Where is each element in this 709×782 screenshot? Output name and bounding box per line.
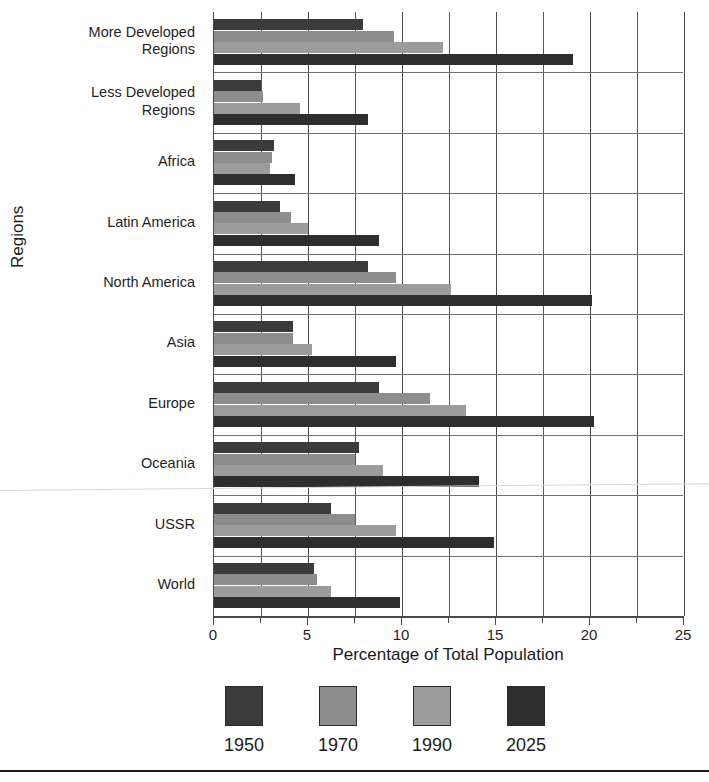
bar [214,344,312,355]
category-label-line: USSR [0,516,195,534]
bar [214,114,368,125]
category-label: More DevelopedRegions [0,24,205,59]
legend-swatch [413,686,451,726]
x-tick-minor [354,616,355,623]
x-tick-label: 15 [475,626,515,643]
bar [214,174,295,185]
bar [214,321,293,332]
x-tick-minor [636,616,637,623]
category-label: World [0,576,205,594]
legend-item[interactable]: 1950 [196,686,292,756]
x-tick-label: 20 [569,626,609,643]
category-label: Asia [0,334,205,352]
group-separator [214,193,683,194]
bar [214,261,368,272]
group-separator [214,314,683,315]
bar [214,272,396,283]
category-label-line: North America [0,274,195,292]
bar [214,91,263,102]
x-tick-major [307,616,308,625]
group-separator [214,133,683,134]
category-label: Oceania [0,455,205,473]
bar [214,284,451,295]
group-separator [214,435,683,436]
bar [214,405,466,416]
bar-chart: 0510152025 More DevelopedRegionsLess Dev… [0,0,709,782]
legend-swatch [507,686,545,726]
x-tick-minor [542,616,543,623]
bar [214,19,363,30]
category-label: Europe [0,395,205,413]
bar [214,54,573,65]
category-label-line: Africa [0,153,195,171]
bar [214,235,379,246]
x-tick-label: 5 [287,626,327,643]
category-label-line: Latin America [0,214,195,232]
legend-label: 1990 [384,735,480,756]
category-label: USSR [0,516,205,534]
bar [214,140,274,151]
y-axis-title: Regions [8,206,28,268]
group-separator [214,374,683,375]
x-tick-minor [448,616,449,623]
bar [214,393,430,404]
x-tick-label: 25 [663,626,703,643]
x-tick-major [589,616,590,625]
bar [214,163,270,174]
bar [214,223,308,234]
bar [214,563,314,574]
bar [214,42,443,53]
bar [214,442,359,453]
legend-label: 2025 [478,735,574,756]
x-tick-label: 0 [193,626,233,643]
group-separator [214,254,683,255]
bar [214,201,280,212]
bar [214,333,293,344]
bar [214,416,594,427]
plot-area [213,12,683,616]
bar [214,586,331,597]
bar [214,31,394,42]
bar [214,514,355,525]
category-label: North America [0,274,205,292]
bar [214,152,272,163]
bar [214,295,592,306]
x-tick-label: 10 [381,626,421,643]
bar [214,382,379,393]
bar [214,103,300,114]
x-axis-title: Percentage of Total Population [213,645,683,665]
legend-item[interactable]: 1990 [384,686,480,756]
category-label-line: Asia [0,334,195,352]
legend-swatch [319,686,357,726]
category-label: Less DevelopedRegions [0,84,205,119]
category-label: Africa [0,153,205,171]
bar [214,537,494,548]
legend-item[interactable]: 2025 [478,686,574,756]
category-label-line: Less Developed [0,84,195,102]
bar [214,503,331,514]
legend-item[interactable]: 1970 [290,686,386,756]
category-label-line: Regions [0,41,195,59]
category-label-line: More Developed [0,24,195,42]
group-separator [214,556,683,557]
category-label-line: Europe [0,395,195,413]
bar [214,465,383,476]
x-tick-major [683,616,684,625]
group-separator [214,495,683,496]
bar [214,597,400,608]
bar [214,356,396,367]
x-tick-major [495,616,496,625]
bar [214,525,396,536]
bar [214,574,317,585]
bar [214,454,355,465]
x-tick-minor [260,616,261,623]
legend-label: 1970 [290,735,386,756]
category-label-line: Regions [0,102,195,120]
legend-swatch [225,686,263,726]
group-separator [214,72,683,73]
category-label: Latin America [0,214,205,232]
bar [214,212,291,223]
footer-rule [0,770,709,772]
x-tick-major [213,616,214,625]
legend-label: 1950 [196,735,292,756]
